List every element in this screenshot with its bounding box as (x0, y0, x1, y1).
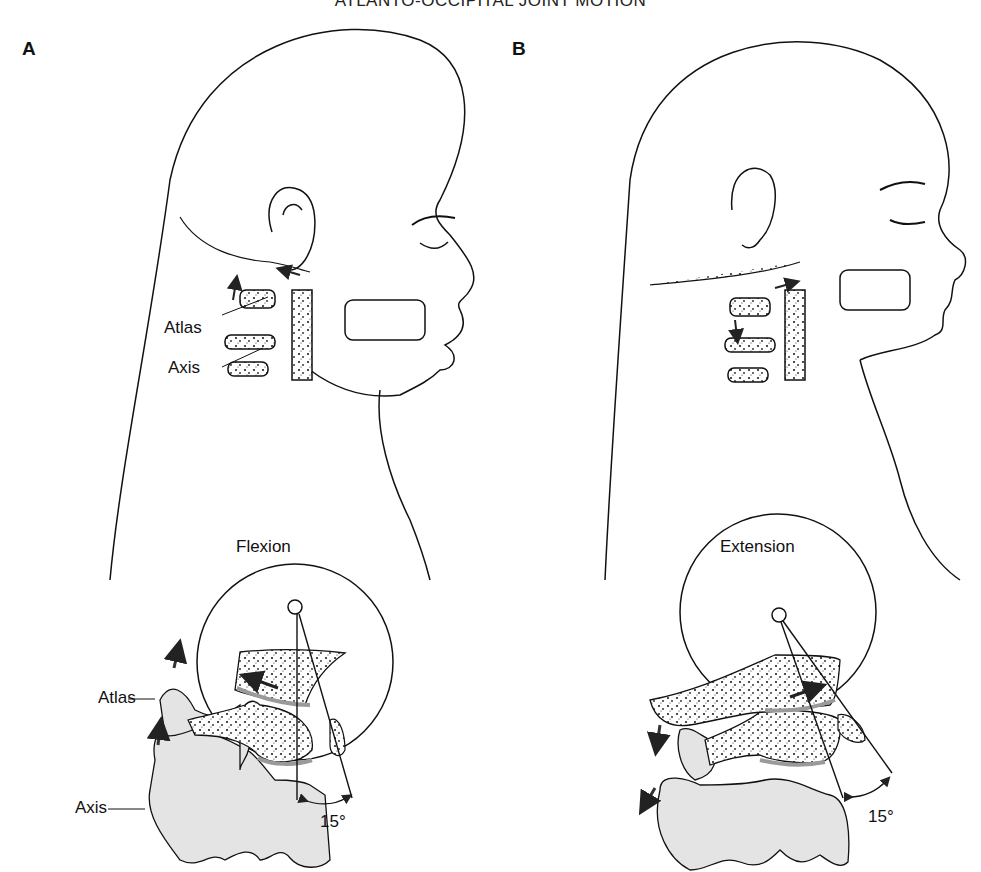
angle-label-b: 15° (868, 807, 894, 827)
head-extension (605, 42, 965, 580)
detail-flexion (108, 564, 393, 867)
label-axis-detail: Axis (75, 798, 107, 818)
illustration (0, 0, 981, 872)
label-atlas-a: Atlas (164, 318, 202, 338)
motion-label-flexion: Flexion (236, 537, 291, 557)
motion-label-extension: Extension (720, 537, 795, 557)
label-atlas-detail: Atlas (98, 688, 136, 708)
detail-extension (645, 514, 892, 870)
head-flexion (110, 29, 474, 580)
angle-label-a: 15° (320, 812, 346, 832)
label-axis-a: Axis (168, 358, 200, 378)
